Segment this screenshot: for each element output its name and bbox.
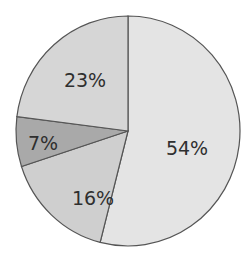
- pie-slices: [16, 16, 240, 246]
- pie-chart: 54%16%7%23%: [0, 0, 242, 270]
- slice-label: 23%: [64, 69, 106, 91]
- slice-label: 7%: [28, 132, 58, 154]
- slice-label: 54%: [166, 137, 208, 159]
- slice-label: 16%: [72, 187, 114, 209]
